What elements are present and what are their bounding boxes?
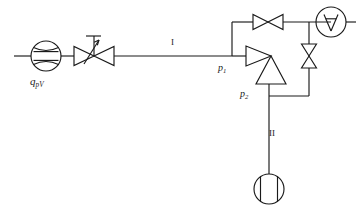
pump-body: [254, 174, 284, 204]
shutoff-valve-right-lower-body: [302, 56, 317, 68]
flow-meter-arc-bottom: [34, 62, 59, 65]
flow-meter-body: [31, 41, 61, 71]
schematic-diagram: qpV p1 p2 I II: [0, 0, 363, 213]
line-i-label: I: [171, 38, 174, 47]
accumulator-glyph-right-stroke: [331, 15, 338, 32]
line-ii-label: II: [269, 129, 275, 138]
flow-meter-arc-top: [34, 48, 59, 51]
shutoff-valve-right-upper-body: [302, 44, 317, 56]
pressure-1-label: p1: [218, 63, 226, 74]
control-valve-left-body: [74, 47, 94, 66]
accumulator-glyph-left-stroke: [324, 15, 331, 32]
pressure-2-label: p2: [240, 89, 248, 100]
control-valve-right-body: [94, 47, 114, 66]
schematic-canvas: [0, 0, 363, 213]
shutoff-valve-top-right-body: [268, 15, 283, 30]
shutoff-valve-top-left-body: [253, 15, 268, 30]
flow-meter-label: qpV: [30, 76, 44, 89]
